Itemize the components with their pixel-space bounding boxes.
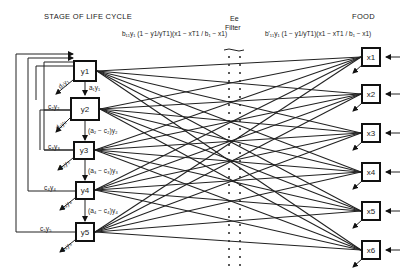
stage-label: y2 [81, 105, 89, 114]
stage-label: y3 [80, 146, 88, 155]
right-formula: b'₁₁y₁ (1 − y1/yT1)(x1 − xT1 / b₁ − x1) [265, 30, 371, 38]
filter-label: Filter [225, 24, 241, 32]
stage-of-life-cycle-title: STAGE OF LIFE CYCLE [44, 13, 104, 21]
left-formula: b₁₁y₁ (1 − y1/yT1)(x1 − xT1 / b₁ − x1) [122, 30, 227, 38]
feedback-label-2: c₂y₂ [48, 103, 60, 111]
transfer-label-3: (a₃ − c₃)y₃ [88, 167, 118, 175]
network-lines [0, 0, 407, 278]
feedback-label-5: c₅y₅ [40, 225, 52, 233]
food-label: x3 [367, 129, 375, 138]
food-box-x1: x1 [361, 47, 381, 67]
stage-box-y1: y1 [73, 60, 97, 82]
food-box-x5: x5 [361, 201, 381, 221]
stage-box-y5: y5 [75, 222, 95, 242]
stage-label: y1 [81, 67, 89, 76]
stage-box-y2: y2 [70, 97, 100, 121]
food-label: x2 [367, 90, 375, 99]
food-box-x3: x3 [361, 123, 381, 143]
food-label: x6 [367, 246, 375, 255]
stage-label: y4 [81, 186, 89, 195]
food-title: FOOD [352, 13, 375, 21]
transfer-label-4: (a₄ − c₄)y₄ [88, 207, 118, 215]
food-box-x2: x2 [361, 84, 381, 104]
food-label: x5 [367, 207, 375, 216]
feedback-label-4: c₄y₄ [44, 184, 56, 192]
food-label: x1 [367, 53, 375, 62]
food-box-x6: x6 [361, 240, 381, 260]
feedback-label-3: c₃y₃ [48, 143, 60, 151]
transfer-label-1: a₁y₁ [89, 84, 100, 92]
filter-ee-label: Ee [230, 15, 239, 23]
food-label: x4 [367, 168, 375, 177]
stage-box-y3: y3 [73, 141, 95, 160]
food-box-x4: x4 [361, 162, 381, 182]
transfer-label-2: (a₂ − c₂)y₂ [88, 127, 117, 135]
stage-label: y5 [81, 228, 89, 237]
stage-box-y4: y4 [75, 181, 95, 200]
